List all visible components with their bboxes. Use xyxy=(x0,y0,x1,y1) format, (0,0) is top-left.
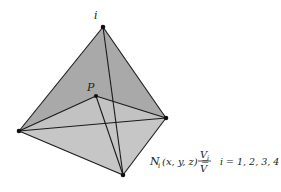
vertex-left xyxy=(17,129,22,134)
label-vertex-i: i xyxy=(94,9,98,22)
vertex-top xyxy=(101,25,106,30)
vertex-right xyxy=(164,116,169,121)
vertex-bottom xyxy=(121,173,126,178)
formula-condition: i = 1, 2, 3, 4 xyxy=(220,156,279,167)
formula-lhs-subscript: i xyxy=(158,162,160,170)
tetrahedron-diagram: i P N i (x, y, z) = V i V i = 1, 2, 3, 4 xyxy=(0,0,281,192)
vertex-p xyxy=(94,94,98,98)
shape-function-formula: N i (x, y, z) = V i V i = 1, 2, 3, 4 xyxy=(149,149,279,174)
tetrahedron-figure: i P N i (x, y, z) = V i V i = 1, 2, 3, 4 xyxy=(0,0,281,192)
label-point-p: P xyxy=(86,81,95,94)
